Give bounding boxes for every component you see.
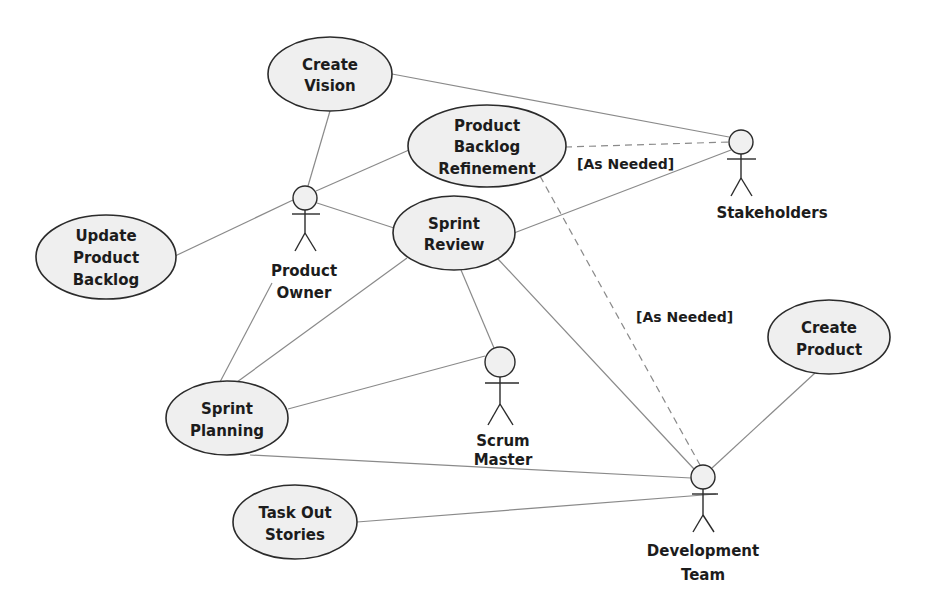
- use-case-create-vision[interactable]: Create Vision: [268, 37, 392, 111]
- use-case-label: Stories: [265, 526, 325, 544]
- actor-label: Owner: [277, 284, 332, 302]
- assoc-sprint-planning-product-owner: [220, 283, 272, 382]
- actor-stakeholders[interactable]: Stakeholders: [716, 130, 827, 222]
- actor-label: Product: [271, 262, 337, 280]
- assoc-create-product-devteam: [712, 373, 815, 468]
- actor-scrum-master[interactable]: Scrum Master: [474, 347, 533, 469]
- use-case-diagram: Create Vision Product Backlog Refinement…: [0, 0, 925, 605]
- stick-figure-icon: [292, 186, 320, 251]
- use-case-label: Create: [801, 319, 857, 337]
- use-case-label: Backlog: [73, 271, 140, 289]
- assoc-sprint-review-scrum-master: [461, 270, 494, 348]
- guard-label-as-needed-stakeholders: [As Needed]: [577, 156, 674, 172]
- assoc-sprint-planning-scrum-master: [288, 356, 485, 409]
- use-case-sprint-planning[interactable]: Sprint Planning: [166, 381, 288, 455]
- stick-figure-icon: [727, 130, 756, 196]
- use-case-label: Update: [75, 227, 136, 245]
- stick-figure-icon: [691, 465, 718, 532]
- actor-label: Development: [647, 542, 759, 560]
- use-case-label: Sprint: [428, 215, 480, 233]
- use-case-label: Create: [302, 56, 358, 74]
- use-case-label: Sprint: [201, 400, 253, 418]
- guard-label-as-needed-devteam: [As Needed]: [636, 309, 733, 325]
- use-case-create-product[interactable]: Create Product: [768, 300, 890, 374]
- use-case-sprint-review[interactable]: Sprint Review: [393, 196, 515, 270]
- actor-development-team[interactable]: Development Team: [647, 465, 759, 584]
- use-case-label: Review: [424, 236, 485, 254]
- assoc-pbr-stakeholders-dashed: [565, 142, 729, 147]
- use-case-label: Product: [796, 341, 862, 359]
- use-case-label: Planning: [190, 422, 264, 440]
- assoc-sprint-planning-devteam: [250, 455, 691, 478]
- actor-label: Master: [474, 451, 533, 469]
- assoc-sprint-review-product-owner: [317, 203, 394, 228]
- assoc-task-out-devteam: [357, 494, 716, 522]
- use-case-label: Product: [454, 117, 520, 135]
- actor-label: Team: [681, 566, 725, 584]
- use-case-label: Task Out: [258, 504, 331, 522]
- stick-figure-icon: [485, 347, 519, 425]
- use-case-update-product-backlog[interactable]: Update Product Backlog: [36, 215, 176, 299]
- assoc-pbr-product-owner: [316, 150, 409, 191]
- assoc-update-pb-product-owner: [175, 200, 293, 256]
- actor-label: Scrum: [476, 432, 529, 450]
- actor-label: Stakeholders: [716, 204, 827, 222]
- use-case-label: Product: [73, 249, 139, 267]
- use-case-label: Backlog: [454, 138, 521, 156]
- assoc-create-vision-product-owner: [308, 111, 330, 186]
- use-case-label: Vision: [304, 77, 356, 95]
- use-case-label: Refinement: [438, 160, 535, 178]
- use-case-task-out-stories[interactable]: Task Out Stories: [233, 485, 357, 559]
- actor-product-owner[interactable]: Product Owner: [271, 186, 337, 302]
- use-case-product-backlog-refinement[interactable]: Product Backlog Refinement: [408, 105, 566, 187]
